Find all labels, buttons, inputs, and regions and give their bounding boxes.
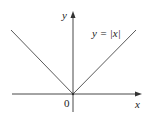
y-axis-arrow-icon: [71, 11, 76, 18]
x-axis-arrow-icon: [135, 92, 142, 97]
x-axis-label: x: [135, 99, 140, 110]
curve-label: y = |x|: [92, 28, 121, 39]
origin-label: 0: [64, 98, 70, 109]
origin-point: [72, 93, 74, 95]
abs-value-graph: y x 0 y = |x|: [0, 0, 150, 120]
plot-area: [0, 0, 150, 120]
y-axis-label: y: [62, 10, 67, 21]
abs-curve: [11, 30, 136, 94]
